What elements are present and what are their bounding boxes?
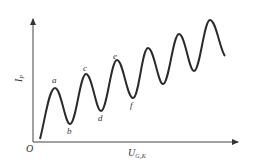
svg-text:IP: IP (13, 75, 25, 83)
x-axis-label: UG₂K (128, 147, 147, 159)
label-d: d (98, 113, 103, 123)
origin-label: O (26, 143, 33, 154)
label-e: e (113, 51, 117, 61)
label-b: b (67, 126, 72, 136)
label-c: c (83, 63, 87, 73)
current-curve (40, 20, 225, 139)
label-f: f (130, 100, 134, 110)
label-a: a (52, 75, 57, 85)
franck-hertz-diagram: a b c d e f IP O UG₂K (0, 0, 254, 166)
y-axis-label: IP (13, 75, 25, 83)
